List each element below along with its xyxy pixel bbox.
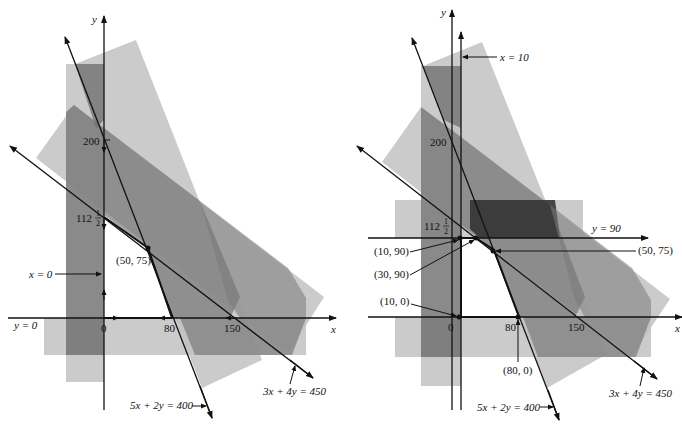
tick-label-150: 150 xyxy=(224,322,241,334)
figure: y x 200 112 1 2 0 80 150 (50, 75) x = 0 xyxy=(0,0,682,429)
leader-3x-4y-450 xyxy=(290,366,295,384)
label-x-10: x = 10 xyxy=(499,51,529,63)
right-graph: y x 200 112 1 2 0 80 150 x = 10 y = 90 xyxy=(357,6,682,420)
line-5x-2y-400-end xyxy=(200,386,212,418)
label-5x-2y-400: 5x + 2y = 400 xyxy=(130,399,194,411)
overlap-5 xyxy=(421,317,461,357)
vertex-50-75 xyxy=(491,249,496,254)
tick-label-112: 112 xyxy=(76,212,92,224)
x-axis-label: x xyxy=(674,322,680,334)
label-x0: x = 0 xyxy=(28,268,53,280)
tick-label-200: 200 xyxy=(83,135,100,147)
label-10-90: (10, 90) xyxy=(374,245,409,258)
label-80-0: (80, 0) xyxy=(503,364,533,377)
tick-label-200: 200 xyxy=(430,136,447,148)
leader-3x-4y-450 xyxy=(640,368,644,386)
tick-label-0: 0 xyxy=(448,321,454,333)
vertex-label-50-75: (50, 75) xyxy=(116,254,151,267)
tick-label-150: 150 xyxy=(568,321,585,333)
line-5x-2y-400-end xyxy=(548,390,559,420)
y-axis-label: y xyxy=(91,13,97,25)
vertex-30-90 xyxy=(474,236,479,241)
tick-label-112-den: 2 xyxy=(444,227,448,236)
label-3x-4y-450: 3x + 4y = 450 xyxy=(608,387,673,399)
tick-label-0: 0 xyxy=(101,322,107,334)
label-3x-4y-450: 3x + 4y = 450 xyxy=(262,385,327,397)
overlap-6 xyxy=(180,318,306,355)
label-5x-2y-400: 5x + 2y = 400 xyxy=(477,401,541,413)
line-3x-4y-450-end xyxy=(634,361,657,379)
line-3x-4y-450-end xyxy=(290,360,313,378)
overlap-6 xyxy=(523,317,651,357)
overlap-dark-band xyxy=(470,200,560,238)
left-graph: y x 200 112 1 2 0 80 150 (50, 75) x = 0 xyxy=(8,13,336,418)
label-10-0: (10, 0) xyxy=(380,295,410,308)
vertex-50-75 xyxy=(146,246,151,251)
tick-label-80: 80 xyxy=(505,321,517,333)
y-axis-label: y xyxy=(440,6,446,18)
overlap-5 xyxy=(66,318,104,355)
tick-label-112-num: 1 xyxy=(444,217,448,226)
tick-label-112: 112 xyxy=(424,220,440,232)
vertex-10-0 xyxy=(457,315,462,320)
tick-label-112-num: 1 xyxy=(96,209,100,218)
vertex-10-90 xyxy=(458,236,463,241)
label-y-90: y = 90 xyxy=(591,222,621,234)
label-y0: y = 0 xyxy=(13,319,38,331)
vertex-80-0 xyxy=(516,315,521,320)
tick-label-80: 80 xyxy=(164,322,176,334)
tick-label-112-den: 2 xyxy=(96,219,100,228)
x-axis-label: x xyxy=(330,323,336,335)
label-30-90: (30, 90) xyxy=(374,268,409,281)
label-50-75: (50, 75) xyxy=(638,244,673,257)
